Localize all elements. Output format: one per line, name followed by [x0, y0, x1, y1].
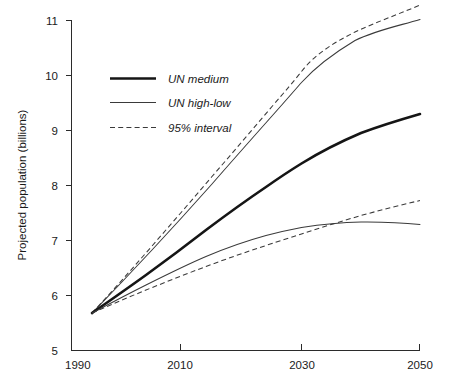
legend-item-un-medium: UN medium: [110, 73, 229, 85]
series-un-medium: [92, 114, 420, 313]
x-tick-label-2010: 2010: [167, 359, 193, 371]
y-tick-label-9: 9: [52, 125, 58, 137]
x-tick-marks: [181, 344, 420, 351]
series-95-interval-lower: [92, 201, 420, 314]
x-tick-labels: 1990 2010 2030 2050: [65, 359, 433, 371]
projected-population-chart: 11 10 9 8 7 6 5 1990 2010 2030 2050 Proj…: [0, 0, 451, 388]
series-group: [92, 5, 420, 313]
legend-label-un-high-low: UN high-low: [168, 97, 231, 109]
y-tick-label-7: 7: [52, 235, 58, 247]
x-tick-label-2050: 2050: [407, 359, 433, 371]
series-un-high: [92, 20, 420, 314]
legend-item-95-interval: 95% interval: [110, 122, 232, 134]
y-tick-label-5: 5: [52, 345, 58, 357]
y-axis-title: Projected population (billions): [16, 109, 28, 260]
y-tick-marks: [66, 21, 72, 296]
axes-group: [72, 20, 421, 351]
y-tick-label-6: 6: [52, 290, 58, 302]
axis-lines: [72, 20, 421, 351]
chart-legend: UN medium UN high-low 95% interval: [110, 73, 232, 134]
legend-label-un-medium: UN medium: [168, 73, 229, 85]
chart-svg: 11 10 9 8 7 6 5 1990 2010 2030 2050 Proj…: [0, 0, 451, 388]
series-95-interval-upper: [92, 5, 420, 313]
series-un-low: [92, 222, 420, 313]
legend-label-95-interval: 95% interval: [168, 122, 232, 134]
x-tick-label-2030: 2030: [289, 359, 315, 371]
x-tick-label-1990: 1990: [65, 359, 91, 371]
y-tick-label-10: 10: [45, 70, 58, 82]
y-tick-label-11: 11: [46, 15, 58, 27]
legend-item-un-high-low: UN high-low: [110, 97, 231, 109]
y-tick-labels: 11 10 9 8 7 6 5: [45, 15, 58, 357]
y-tick-label-8: 8: [52, 180, 58, 192]
